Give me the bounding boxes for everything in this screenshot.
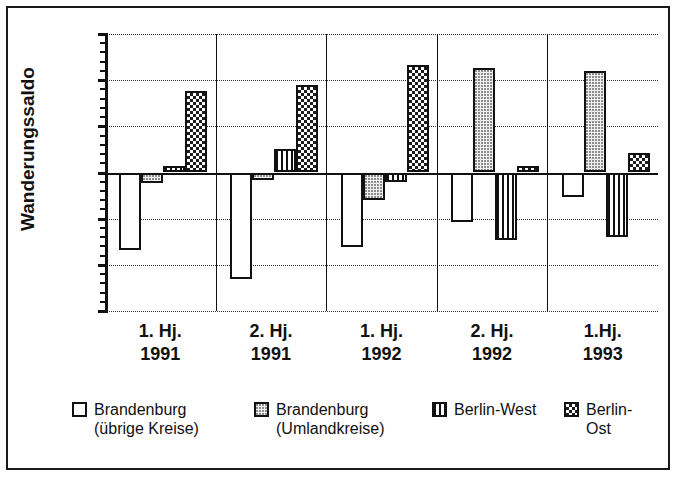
bar (230, 173, 252, 279)
bar (141, 173, 163, 183)
x-axis-tick-label: 2. Hj.1991 (216, 320, 327, 366)
chart-figure: Wanderungssaldo 150010005000-500-1000-15… (0, 0, 677, 477)
legend-item[interactable]: Berlin-Ost (564, 400, 652, 438)
bar (562, 173, 584, 197)
bar (252, 173, 274, 180)
x-axis-tick-label: 1. Hj.1992 (326, 320, 437, 366)
bar (407, 65, 429, 172)
y-axis-tick (98, 310, 108, 313)
y-axis-minor-tick (100, 70, 108, 72)
y-axis-minor-tick (100, 88, 108, 90)
y-axis-tick (98, 33, 108, 36)
legend-label: Berlin-Ost (586, 400, 652, 438)
bar (473, 68, 495, 172)
y-axis-tick (98, 125, 108, 128)
x-axis-label-line: 1991 (216, 343, 327, 366)
bar (628, 153, 650, 172)
y-axis-minor-tick (100, 301, 108, 303)
bar (385, 173, 407, 182)
legend-label-line: (Umlandkreise) (276, 419, 384, 438)
y-axis-minor-tick (100, 245, 108, 247)
y-axis-minor-tick (100, 61, 108, 63)
gridline (105, 219, 658, 220)
y-axis-minor-tick (100, 199, 108, 201)
legend-swatch-icon (564, 402, 579, 417)
x-axis-tick-labels: 1. Hj.19912. Hj.19911. Hj.19922. Hj.1992… (105, 320, 658, 380)
x-axis-tick-label: 2. Hj.1992 (437, 320, 548, 366)
y-axis-minor-tick (100, 162, 108, 164)
y-axis-minor-tick (100, 282, 108, 284)
y-axis-minor-tick (100, 116, 108, 118)
gridline (105, 311, 658, 312)
legend-label-line: (übrige Kreise) (94, 419, 199, 438)
y-axis-minor-tick (100, 208, 108, 210)
bar (451, 173, 473, 223)
y-axis-minor-tick (100, 135, 108, 137)
x-axis-label-line: 2. Hj. (216, 320, 327, 343)
x-axis-label-line: 1992 (326, 343, 437, 366)
x-axis-tick-label: 1.Hj.1993 (547, 320, 658, 366)
bar (341, 173, 363, 248)
x-axis-label-line: 1. Hj. (326, 320, 437, 343)
legend-item[interactable]: Berlin-West (432, 400, 536, 419)
x-axis-label-line: 1992 (437, 343, 548, 366)
y-axis-tick (98, 172, 108, 175)
legend-label: Brandenburg(übrige Kreise) (94, 400, 199, 438)
legend-label: Brandenburg(Umlandkreise) (276, 400, 384, 438)
y-axis-minor-tick (100, 107, 108, 109)
legend-label: Berlin-West (454, 400, 536, 419)
bar (274, 149, 296, 172)
y-axis-title: Wanderungssaldo (17, 39, 39, 259)
x-axis-label-line: 1. Hj. (105, 320, 216, 343)
legend-label-line: Berlin-Ost (586, 400, 652, 438)
bar (495, 173, 517, 240)
y-axis-minor-tick (100, 153, 108, 155)
y-axis-minor-tick (100, 190, 108, 192)
bar (296, 85, 318, 173)
legend-swatch-icon (72, 402, 87, 417)
y-axis-tick (98, 264, 108, 267)
x-axis-label-line: 1.Hj. (547, 320, 658, 343)
plot-area: 150010005000-500-1000-1500 (105, 34, 658, 311)
legend-item[interactable]: Brandenburg(übrige Kreise) (72, 400, 199, 438)
gridline (105, 80, 658, 81)
legend-swatch-icon (254, 402, 269, 417)
legend-label-line: Berlin-West (454, 400, 536, 419)
y-axis-minor-tick (100, 273, 108, 275)
y-axis-minor-tick (100, 51, 108, 53)
y-axis-minor-tick (100, 255, 108, 257)
y-axis-minor-tick (100, 236, 108, 238)
bar (606, 173, 628, 238)
legend-label-line: Brandenburg (276, 400, 384, 419)
legend-item[interactable]: Brandenburg(Umlandkreise) (254, 400, 384, 438)
x-axis-label-line: 1993 (547, 343, 658, 366)
y-axis-minor-tick (100, 292, 108, 294)
x-axis-label-line: 1991 (105, 343, 216, 366)
y-axis-minor-tick (100, 42, 108, 44)
bar (185, 91, 207, 172)
bar (363, 173, 385, 201)
legend-swatch-icon (432, 402, 447, 417)
y-axis-minor-tick (100, 144, 108, 146)
gridline (105, 265, 658, 266)
y-axis-tick (98, 218, 108, 221)
y-axis-minor-tick (100, 227, 108, 229)
bar (584, 71, 606, 173)
bar (119, 173, 141, 251)
y-axis-tick (98, 79, 108, 82)
y-axis-minor-tick (100, 181, 108, 183)
plot-area-wrapper: 150010005000-500-1000-1500 (105, 34, 658, 311)
chart-legend: Brandenburg(übrige Kreise)Brandenburg(Um… (72, 400, 652, 458)
legend-label-line: Brandenburg (94, 400, 199, 419)
x-axis-label-line: 2. Hj. (437, 320, 548, 343)
gridline (105, 34, 658, 35)
x-axis-tick-label: 1. Hj.1991 (105, 320, 216, 366)
y-axis-minor-tick (100, 98, 108, 100)
